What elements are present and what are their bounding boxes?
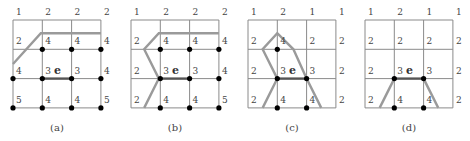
vertex-value-label: 3 xyxy=(45,66,51,76)
vertex-value-label: 2 xyxy=(251,36,257,46)
vertex-value-label: 2 xyxy=(310,36,316,46)
vertex-value-label: 2 xyxy=(251,95,257,105)
vertex-value-label: 4 xyxy=(222,36,228,46)
grid-node xyxy=(304,105,309,110)
vertex-value-label: 4 xyxy=(45,36,51,46)
vertex-value-label: 2 xyxy=(163,7,169,17)
vertex-value-label: 1 xyxy=(339,7,345,17)
vertex-value-label: 2 xyxy=(397,7,403,17)
vertex-value-label: 1 xyxy=(368,7,374,17)
grid-node xyxy=(275,47,280,52)
grid-node xyxy=(275,76,280,81)
panel-caption: (c) xyxy=(285,122,299,133)
vertex-value-label: 3 xyxy=(397,66,403,76)
edge-label: e xyxy=(54,64,61,77)
grid-node xyxy=(40,47,45,52)
vertex-value-label: 3 xyxy=(193,66,199,76)
grid-node xyxy=(158,47,163,52)
grid-node xyxy=(158,76,163,81)
vertex-value-label: 4 xyxy=(397,95,403,105)
panel-caption: (a) xyxy=(50,122,64,133)
diagram-canvas: 1222244443345445e(a)1222244423342445e(b)… xyxy=(0,0,470,141)
vertex-value-label: 2 xyxy=(339,95,345,105)
grid-node xyxy=(216,76,221,81)
vertex-value-label: 5 xyxy=(16,95,22,105)
grid-node xyxy=(69,47,74,52)
grid-node xyxy=(421,105,426,110)
edge-label: e xyxy=(406,64,413,77)
vertex-value-label: 4 xyxy=(45,95,51,105)
vertex-value-label: 2 xyxy=(339,66,345,76)
vertex-value-label: 2 xyxy=(222,7,228,17)
vertex-value-label: 2 xyxy=(134,95,140,105)
grid-node xyxy=(69,76,74,81)
vertex-value-label: 4 xyxy=(222,66,228,76)
grid-node xyxy=(98,105,103,110)
vertex-value-label: 5 xyxy=(104,95,110,105)
grid-node xyxy=(10,76,15,81)
vertex-value-label: 1 xyxy=(134,7,140,17)
grid-node xyxy=(216,47,221,52)
vertex-value-label: 4 xyxy=(75,95,81,105)
vertex-value-label: 2 xyxy=(104,7,110,17)
panel-caption: (d) xyxy=(402,122,416,133)
vertex-value-label: 2 xyxy=(280,7,286,17)
vertex-value-label: 2 xyxy=(251,66,257,76)
grid-node xyxy=(392,105,397,110)
vertex-value-label: 4 xyxy=(280,95,286,105)
edge-label: e xyxy=(289,64,296,77)
grid-node xyxy=(10,105,15,110)
boundary-path xyxy=(380,79,395,108)
boundary-path xyxy=(13,33,101,64)
vertex-value-label: 3 xyxy=(310,66,316,76)
vertex-value-label: 5 xyxy=(222,95,228,105)
vertex-value-label: 4 xyxy=(193,36,199,46)
grid-node xyxy=(158,105,163,110)
vertex-value-label: 4 xyxy=(104,66,110,76)
vertex-value-label: 2 xyxy=(368,95,374,105)
vertex-value-label: 4 xyxy=(280,36,286,46)
vertex-value-label: 3 xyxy=(163,66,169,76)
vertex-value-label: 4 xyxy=(310,95,316,105)
grid-node xyxy=(421,76,426,81)
vertex-value-label: 2 xyxy=(45,7,51,17)
vertex-value-label: 2 xyxy=(368,66,374,76)
vertex-value-label: 3 xyxy=(280,66,286,76)
vertex-value-label: 3 xyxy=(75,66,81,76)
vertex-value-label: 4 xyxy=(75,36,81,46)
vertex-value-label: 2 xyxy=(456,36,462,46)
vertex-value-label: 2 xyxy=(368,36,374,46)
boundary-path xyxy=(144,33,219,108)
vertex-value-label: 4 xyxy=(427,95,433,105)
vertex-value-label: 4 xyxy=(163,95,169,105)
grid-node xyxy=(187,76,192,81)
grid-node xyxy=(275,105,280,110)
vertex-value-label: 4 xyxy=(104,36,110,46)
grid-node xyxy=(69,105,74,110)
grid-node xyxy=(40,76,45,81)
vertex-value-label: 3 xyxy=(427,66,433,76)
vertex-value-label: 1 xyxy=(427,7,433,17)
panel-caption: (b) xyxy=(168,122,182,133)
vertex-value-label: 4 xyxy=(163,36,169,46)
grid-node xyxy=(187,47,192,52)
vertex-value-label: 2 xyxy=(134,66,140,76)
edge-label: e xyxy=(172,64,179,77)
vertex-value-label: 1 xyxy=(310,7,316,17)
vertex-value-label: 1 xyxy=(251,7,257,17)
vertex-value-label: 2 xyxy=(75,7,81,17)
grid-node xyxy=(98,76,103,81)
vertex-value-label: 2 xyxy=(456,66,462,76)
vertex-value-label: 4 xyxy=(16,66,22,76)
grid-node xyxy=(304,76,309,81)
vertex-value-label: 2 xyxy=(193,7,199,17)
vertex-value-label: 2 xyxy=(134,36,140,46)
vertex-value-label: 1 xyxy=(456,7,462,17)
vertex-value-label: 2 xyxy=(16,36,22,46)
vertex-value-label: 4 xyxy=(193,95,199,105)
vertex-value-label: 2 xyxy=(456,95,462,105)
vertex-value-label: 2 xyxy=(397,36,403,46)
vertex-value-label: 2 xyxy=(427,36,433,46)
vertex-value-label: 2 xyxy=(339,36,345,46)
grid-node xyxy=(187,105,192,110)
